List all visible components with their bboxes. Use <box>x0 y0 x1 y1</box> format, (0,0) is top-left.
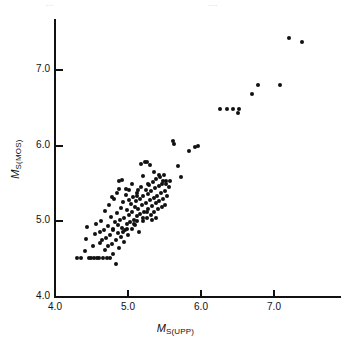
scatter-point <box>163 189 167 193</box>
scatter-point <box>152 170 156 174</box>
scatter-point <box>83 249 87 253</box>
scatter-point <box>161 197 165 201</box>
x-tick-label: 7.0 <box>259 301 289 312</box>
scatter-point <box>104 236 108 240</box>
scatter-point <box>163 203 167 207</box>
scatter-point <box>159 191 163 195</box>
scatter-point <box>119 235 123 239</box>
scatter-point <box>127 188 131 192</box>
scatter-point <box>136 207 140 211</box>
scatter-point <box>91 244 95 248</box>
scatter-point <box>124 187 128 191</box>
scatter-point <box>148 163 152 167</box>
scatter-point <box>237 107 241 111</box>
y-tick-label: 6.0 <box>22 139 50 150</box>
scatter-point <box>130 227 134 231</box>
scatter-point <box>121 200 125 204</box>
scatter-point <box>119 206 123 210</box>
plot-data-area <box>55 20 340 297</box>
scatter-point <box>125 208 129 212</box>
scatter-point <box>130 182 134 186</box>
scatter-point <box>287 36 291 40</box>
scatter-point <box>225 107 229 111</box>
scatter-point <box>236 111 240 115</box>
scatter-point <box>109 215 113 219</box>
scatter-point <box>99 219 103 223</box>
scatter-point <box>84 237 88 241</box>
scatter-point <box>250 92 254 96</box>
scatter-point <box>168 179 172 183</box>
y-axis-title: MS(MOS) <box>9 99 23 219</box>
scatter-point <box>176 164 180 168</box>
scatter-point <box>149 189 153 193</box>
y-axis-title-subscript: S(MOS) <box>14 139 23 169</box>
x-tick-label: 6.0 <box>186 301 216 312</box>
scatter-point <box>130 210 134 214</box>
scatter-point <box>94 222 98 226</box>
page-text-fragment-right: .... <box>208 0 218 7</box>
x-axis-title-subscript: S(UPP) <box>166 327 194 336</box>
scatter-point <box>102 228 106 232</box>
x-tick-label: 4.0 <box>40 301 70 312</box>
scatter-point <box>140 203 144 207</box>
scatter-plot-figure: ... .... 4.05.06.07.0 4.05.06.07.0 MS(UP… <box>0 0 351 349</box>
scatter-point <box>79 256 83 260</box>
scatter-point <box>126 233 130 237</box>
scatter-point <box>141 174 145 178</box>
scatter-point <box>107 203 111 207</box>
scatter-point <box>138 197 142 201</box>
scatter-point <box>145 216 149 220</box>
scatter-point <box>157 173 161 177</box>
scatter-point <box>218 107 222 111</box>
scatter-point <box>165 194 169 198</box>
scatter-point <box>103 248 107 252</box>
scatter-point <box>114 238 118 242</box>
scatter-point <box>278 83 282 87</box>
scatter-point <box>136 188 140 192</box>
scatter-point <box>179 175 183 179</box>
scatter-point <box>300 40 304 44</box>
y-axis-title-main: M <box>9 169 21 178</box>
scatter-point <box>108 256 112 260</box>
scatter-point <box>196 144 200 148</box>
scatter-point <box>256 83 260 87</box>
scatter-point <box>111 227 115 231</box>
scatter-point <box>117 246 121 250</box>
scatter-point <box>139 162 143 166</box>
x-axis-title-main: M <box>157 322 166 334</box>
scatter-point <box>103 209 107 213</box>
scatter-point <box>110 242 114 246</box>
scatter-point <box>85 225 89 229</box>
scatter-point <box>121 230 125 234</box>
scatter-point <box>115 211 119 215</box>
scatter-point <box>108 233 112 237</box>
scatter-point <box>122 240 126 244</box>
scatter-point <box>114 262 118 266</box>
scatter-point <box>111 252 115 256</box>
x-axis-title: MS(UPP) <box>0 322 351 336</box>
scatter-point <box>116 223 120 227</box>
scatter-point <box>127 213 131 217</box>
scatter-point <box>124 193 128 197</box>
scatter-point <box>115 191 119 195</box>
scatter-point <box>122 216 126 220</box>
scatter-point <box>120 178 124 182</box>
x-tick-label: 5.0 <box>113 301 143 312</box>
scatter-point <box>154 216 158 220</box>
scatter-point <box>135 194 139 198</box>
scatter-point <box>137 230 141 234</box>
scatter-point <box>172 142 176 146</box>
scatter-point <box>187 149 191 153</box>
scatter-point <box>106 224 110 228</box>
scatter-point <box>93 232 97 236</box>
scatter-point <box>167 185 171 189</box>
scatter-point <box>141 194 145 198</box>
y-tick-label: 4.0 <box>22 290 50 301</box>
y-tick-label: 5.0 <box>22 214 50 225</box>
scatter-point <box>132 222 136 226</box>
scatter-point <box>141 216 145 220</box>
page-text-fragment-left: ... <box>46 0 53 7</box>
y-tick-label: 7.0 <box>22 63 50 74</box>
scatter-point <box>162 173 166 177</box>
scatter-point <box>125 227 129 231</box>
